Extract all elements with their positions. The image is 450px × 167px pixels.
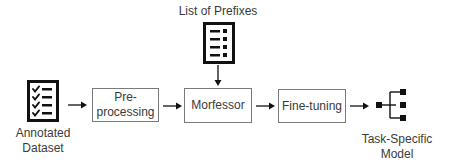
hierarchy-tree-icon [376, 88, 412, 124]
list-document-icon [203, 22, 235, 64]
arrow-preprocessing-to-morfessor [163, 101, 183, 111]
preprocessing-label-line1: Pre- [114, 90, 137, 105]
morfessor-box: Morfessor [184, 88, 252, 123]
finetuning-label: Fine-tuning [282, 99, 342, 114]
task-model-label-line2: Model [352, 147, 442, 162]
arrow-prefix-to-morfessor [213, 65, 223, 87]
prefix-list-label: List of Prefixes [168, 4, 268, 19]
preprocessing-label-line2: processing [96, 105, 154, 120]
arrow-finetuning-to-model [350, 101, 370, 111]
annotated-dataset-label-line2: Dataset [5, 141, 81, 156]
finetuning-box: Fine-tuning [278, 89, 346, 123]
preprocessing-box: Pre- processing [92, 88, 159, 122]
task-model-label-line1: Task-Specific [352, 132, 442, 147]
morfessor-label: Morfessor [191, 98, 244, 113]
task-model-label: Task-Specific Model [352, 132, 442, 162]
arrow-dataset-to-preprocessing [68, 100, 88, 110]
checklist-icon [27, 80, 59, 122]
annotated-dataset-label-line1: Annotated [5, 126, 81, 141]
annotated-dataset-label: Annotated Dataset [5, 126, 81, 156]
arrow-morfessor-to-finetuning [256, 101, 276, 111]
